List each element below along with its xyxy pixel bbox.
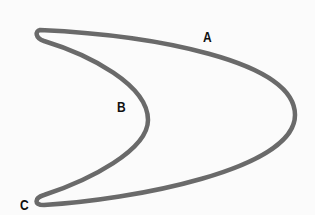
label-b: B (117, 99, 126, 114)
label-a: A (203, 29, 212, 44)
curve-outline (37, 30, 296, 205)
label-c: C (20, 197, 29, 212)
diagram-canvas: A B C (0, 0, 315, 215)
boomerang-curve (0, 0, 315, 215)
